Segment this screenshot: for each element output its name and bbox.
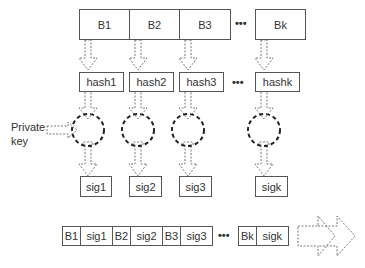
arrow-sign-to-sig-k <box>255 142 273 176</box>
arrow-hash-to-sign-1 <box>79 92 97 119</box>
arrow-sign-to-sig-3 <box>179 142 197 176</box>
arrow-block-to-hash-2 <box>129 40 147 70</box>
arrow-sign-to-sig-2 <box>129 142 147 176</box>
arrow-hash-to-sign-2 <box>129 92 147 119</box>
arrow-hash-to-sign-3 <box>179 92 197 119</box>
arrow-hash-to-sign-k <box>255 92 273 119</box>
output-arrow-icon <box>298 216 355 256</box>
arrow-sign-to-sig-1 <box>79 142 97 176</box>
arrow-block-to-hash-1 <box>79 40 97 70</box>
diagram-graphics <box>0 0 365 268</box>
arrow-block-to-hash-3 <box>179 40 197 70</box>
arrow-block-to-hash-k <box>255 40 273 70</box>
